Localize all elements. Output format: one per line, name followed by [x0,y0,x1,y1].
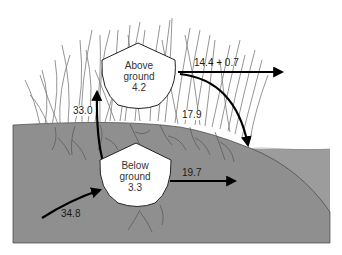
above-line2: ground [108,71,170,82]
flow-label-up: 33.0 [72,106,93,116]
marsh-flow-diagram: Above ground 4.2 Below ground 3.3 34.8 3… [0,0,342,255]
below-line1: Below [104,160,166,171]
below-line2: ground [104,171,166,182]
flow-label-above-to-water: 17.9 [181,110,202,120]
below-value: 3.3 [104,182,166,193]
below-ground-label: Below ground 3.3 [104,160,166,193]
above-value: 4.2 [108,82,170,93]
above-ground-label: Above ground 4.2 [108,60,170,93]
flow-label-below-export: 19.7 [182,168,201,178]
flow-label-input: 34.8 [61,209,80,219]
above-line1: Above [108,60,170,71]
flow-label-above-export: 14.4 + 0.7 [194,58,239,68]
diagram-canvas [0,0,342,255]
